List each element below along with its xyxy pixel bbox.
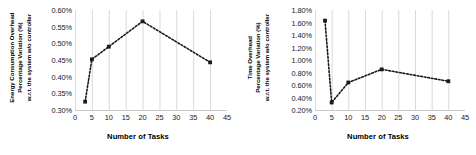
x-tick-label: 0: [73, 113, 77, 122]
x-axis-ticks-energy: 051015202530354045: [75, 113, 227, 125]
data-point-marker: [380, 67, 384, 71]
y-tick-label: 0.80%: [292, 68, 312, 77]
x-axis-ticks-time: 051015202530354045: [315, 113, 465, 125]
y-tick-label: 0.40%: [52, 72, 72, 81]
y-tick-label: 0.55%: [52, 22, 72, 31]
y-axis-title-line-2: Percentage Variation (%): [17, 13, 25, 103]
x-tick-label: 35: [189, 113, 197, 122]
x-axis-title-time: Number of Tasks: [288, 132, 468, 141]
x-tick-label: 10: [344, 113, 352, 122]
x-tick-label: 35: [428, 113, 436, 122]
y-tick-label: 1.40%: [292, 31, 312, 40]
x-tick-label: 15: [361, 113, 369, 122]
x-tick-label: 5: [330, 113, 334, 122]
data-series-line: [85, 21, 210, 101]
x-tick-label: 40: [206, 113, 214, 122]
chart-panel-energy-overhead: Energy Consumption Overhead Percentage V…: [0, 0, 238, 155]
x-tick-label: 45: [461, 113, 469, 122]
y-tick-label: 1.80%: [292, 6, 312, 15]
y-tick-label: 0.40%: [292, 93, 312, 102]
x-tick-label: 30: [172, 113, 180, 122]
data-point-marker: [323, 19, 327, 23]
x-tick-label: 0: [313, 113, 317, 122]
data-point-marker: [346, 81, 350, 85]
y-tick-label: 1.60%: [292, 18, 312, 27]
data-point-marker: [141, 19, 145, 23]
y-axis-ticks-energy: 0.30%0.35%0.40%0.45%0.50%0.55%0.60%: [40, 10, 72, 110]
plot-area-energy: [75, 10, 227, 111]
y-axis-title-energy: Energy Consumption Overhead Percentage V…: [0, 0, 42, 116]
x-tick-label: 20: [378, 113, 386, 122]
y-axis-title-time: Time Overhead Percentage Variation (%) w…: [238, 0, 280, 116]
two-panel-figure: Energy Consumption Overhead Percentage V…: [0, 0, 476, 155]
y-tick-label: 0.35%: [52, 89, 72, 98]
x-tick-label: 10: [105, 113, 113, 122]
x-tick-label: 20: [139, 113, 147, 122]
x-tick-label: 45: [223, 113, 231, 122]
x-tick-label: 40: [444, 113, 452, 122]
x-tick-label: 30: [411, 113, 419, 122]
x-tick-label: 25: [155, 113, 163, 122]
y-tick-label: 0.60%: [292, 81, 312, 90]
data-point-marker: [90, 57, 94, 61]
data-point-marker: [83, 100, 87, 104]
chart-panel-time-overhead: Time Overhead Percentage Variation (%) w…: [238, 0, 476, 155]
x-tick-label: 15: [122, 113, 130, 122]
chart-canvas: [315, 10, 465, 110]
y-tick-label: 0.30%: [52, 106, 72, 115]
x-tick-label: 25: [394, 113, 402, 122]
plot-area-time: [315, 10, 465, 111]
y-axis-ticks-time: 0.20%0.40%0.60%0.80%1.00%1.20%1.40%1.60%…: [278, 10, 312, 110]
data-point-marker: [446, 79, 450, 83]
data-point-marker: [107, 45, 111, 49]
y-tick-label: 1.20%: [292, 43, 312, 52]
y-axis-title-line-3: w.r.t. the system w/o controller: [263, 14, 271, 101]
y-tick-label: 0.60%: [52, 6, 72, 15]
y-tick-label: 0.20%: [292, 106, 312, 115]
x-axis-title-energy: Number of Tasks: [48, 132, 228, 141]
x-tick-label: 5: [90, 113, 94, 122]
data-series-line: [325, 21, 448, 103]
data-point-marker: [330, 101, 334, 105]
y-tick-label: 1.00%: [292, 56, 312, 65]
data-point-marker: [208, 60, 212, 64]
y-tick-label: 0.45%: [52, 56, 72, 65]
y-axis-title-line-1: Energy Consumption Overhead: [8, 13, 16, 103]
y-axis-title-line-3: w.r.t. the system w/o controller: [25, 13, 33, 103]
y-tick-label: 0.50%: [52, 39, 72, 48]
chart-canvas: [75, 10, 227, 110]
y-axis-title-line-2: Percentage Variation (%): [255, 14, 263, 101]
